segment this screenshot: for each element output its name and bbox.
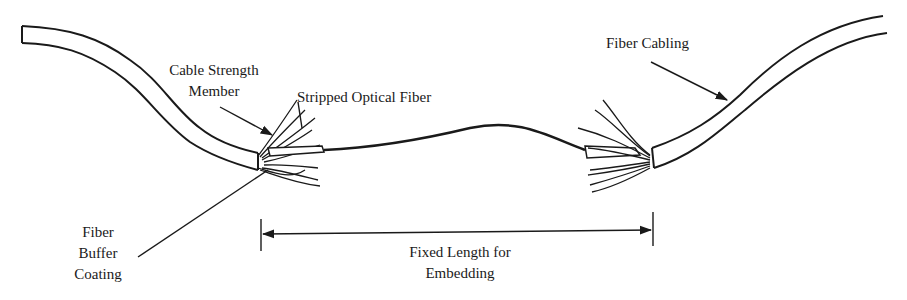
right-fiber-strands (578, 100, 650, 192)
stripped-optical-fiber-line (324, 125, 585, 150)
label-line: Member (150, 81, 278, 102)
stripped-optical-fiber-label: Stripped Optical Fiber (297, 87, 431, 108)
cable-strength-member-pointer (220, 107, 272, 135)
label-line: Fixed Length for (380, 242, 540, 263)
fiber-buffer-coating-label: Fiber Buffer Coating (58, 222, 138, 285)
fiber-cabling-pointer (651, 62, 727, 100)
fiber-embedding-diagram: Cable Strength Member Stripped Optical F… (0, 0, 907, 300)
cable-strength-member-label: Cable Strength Member (150, 60, 278, 102)
fiber-buffer-pointer (138, 170, 268, 257)
label-line: Fiber (58, 222, 138, 243)
fiber-cabling-label: Fiber Cabling (606, 33, 689, 54)
fixed-length-label: Fixed Length for Embedding (380, 242, 540, 284)
label-line: Buffer (58, 243, 138, 264)
label-line: Coating (58, 264, 138, 285)
label-line: Cable Strength (150, 60, 278, 81)
left-fiber-strands (258, 100, 324, 186)
label-line: Embedding (380, 263, 540, 284)
